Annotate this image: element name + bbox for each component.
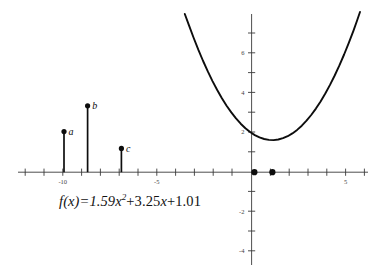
plot-canvas: -10 -5 5 6 4 2 -2 -4 a b c [0, 0, 385, 271]
x-tick-label--5: -5 [154, 178, 159, 185]
equation-mid: +3.25 [126, 193, 160, 209]
stem-point-b: b [85, 100, 97, 172]
axis-marker-dot-1 [251, 169, 257, 175]
stem-point-c: c [119, 143, 131, 173]
axis-marker-dot-2 [269, 169, 275, 175]
stem-dot-c [119, 146, 124, 151]
stem-dot-a [61, 129, 66, 134]
stem-label-c: c [126, 143, 131, 154]
stem-label-b: b [92, 100, 97, 111]
x-tick-label--10: -10 [58, 178, 67, 185]
equation-tail: +1.01 [167, 193, 201, 209]
y-tick-label-2: 2 [241, 128, 244, 135]
y-tick-label-4: 4 [241, 89, 245, 96]
y-tick-label--2: -2 [239, 208, 244, 215]
stem-dot-b [85, 103, 90, 108]
function-equation: f(x)=1.59x2+3.25x+1.01 [59, 192, 201, 210]
y-tick-label--4: -4 [239, 247, 245, 254]
stem-point-a: a [61, 126, 73, 172]
y-tick-label-6: 6 [241, 49, 245, 56]
parabola-figure: -10 -5 5 6 4 2 -2 -4 a b c [0, 0, 385, 271]
equation-lead: f(x)=1.59 [59, 193, 115, 209]
stem-label-a: a [69, 126, 74, 137]
x-tick-label-5: 5 [344, 178, 347, 185]
parabola-curve [185, 12, 360, 140]
